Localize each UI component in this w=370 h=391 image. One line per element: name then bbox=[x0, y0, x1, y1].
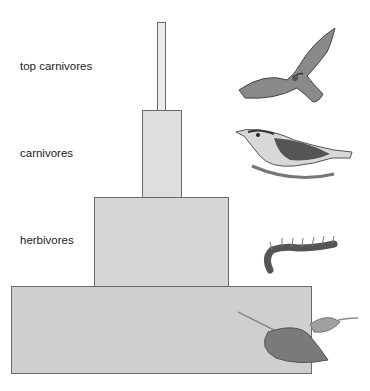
leaves-icon bbox=[238, 308, 360, 366]
label-herbivores: herbivores bbox=[20, 234, 74, 246]
label-top-carnivores: top carnivores bbox=[20, 60, 92, 72]
pyramid-bar-top-carnivores bbox=[157, 22, 166, 111]
pyramid-bar-carnivores bbox=[142, 110, 182, 198]
label-carnivores: carnivores bbox=[20, 147, 73, 159]
pyramid-bar-herbivores bbox=[94, 197, 229, 287]
hawk-icon bbox=[235, 22, 340, 112]
songbird-icon bbox=[234, 126, 356, 190]
caterpillar-icon bbox=[262, 232, 338, 274]
